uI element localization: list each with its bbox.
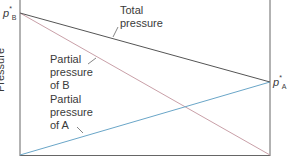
p-star-a-label: p*A xyxy=(273,75,287,90)
total-pressure-leader xyxy=(113,27,118,37)
partial-pressure-a-label: Partial pressure of A xyxy=(50,93,93,132)
partial-pressure-b-label: Partial pressure of B xyxy=(50,53,93,92)
p-star-b-label: p*B xyxy=(3,6,17,21)
y-axis-label: Pressure xyxy=(0,48,6,92)
total-pressure-label: Total pressure xyxy=(120,4,163,30)
